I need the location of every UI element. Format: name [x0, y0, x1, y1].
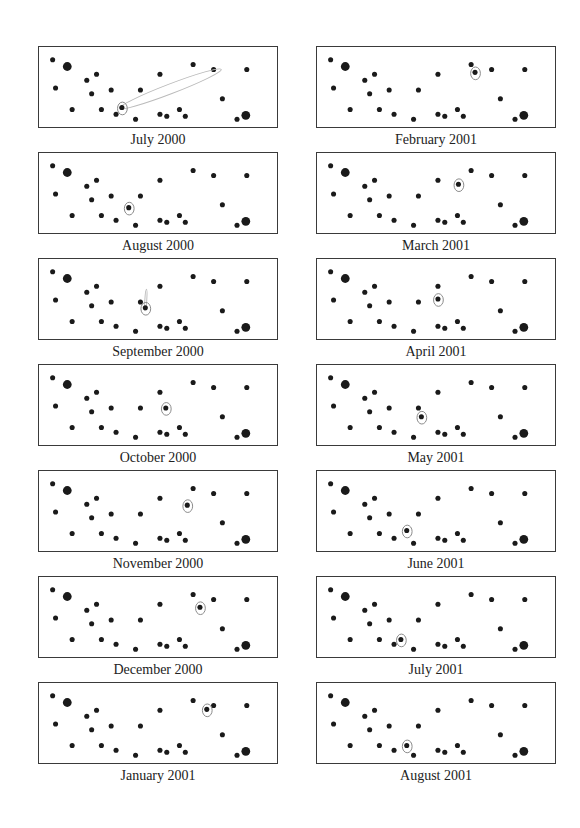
star-icon: [164, 644, 169, 649]
star-icon: [362, 396, 367, 401]
star-icon: [70, 743, 75, 748]
star-icon: [157, 390, 162, 395]
star-field-panel: [38, 576, 278, 658]
star-icon: [512, 117, 517, 122]
star-icon: [177, 319, 182, 324]
panel-caption: November 2000: [38, 556, 278, 572]
star-icon: [331, 615, 336, 620]
star-icon: [191, 486, 196, 491]
star-icon: [138, 617, 143, 622]
star-icon: [341, 486, 350, 495]
panel-caption: April 2001: [316, 344, 556, 360]
star-icon: [138, 723, 143, 728]
star-icon: [177, 425, 182, 430]
star-icon: [461, 750, 466, 755]
star-icon: [244, 597, 249, 602]
star-icon: [455, 213, 460, 218]
star-icon: [498, 96, 503, 101]
star-icon: [50, 269, 55, 274]
star-icon: [442, 220, 447, 225]
star-icon: [519, 747, 528, 756]
star-field-panel: [38, 364, 278, 446]
panel-caption: March 2001: [316, 238, 556, 254]
star-icon: [133, 647, 138, 652]
star-icon: [461, 538, 466, 543]
star-icon: [469, 274, 474, 279]
star-icon: [435, 112, 440, 117]
star-icon: [109, 511, 114, 516]
star-icon: [220, 414, 225, 419]
star-icon: [157, 642, 162, 647]
star-icon: [89, 621, 94, 626]
star-icon: [469, 698, 474, 703]
star-icon: [331, 297, 336, 302]
star-icon: [519, 323, 528, 332]
star-icon: [94, 390, 99, 395]
star-icon: [183, 750, 188, 755]
star-icon: [461, 114, 466, 119]
star-icon: [114, 112, 119, 117]
panel-caption: August 2001: [316, 768, 556, 784]
star-icon: [372, 602, 377, 607]
star-icon: [99, 213, 104, 218]
star-icon: [234, 223, 239, 228]
star-icon: [84, 396, 89, 401]
star-icon: [109, 405, 114, 410]
star-icon: [164, 326, 169, 331]
star-icon: [220, 732, 225, 737]
panel-caption: June 2001: [316, 556, 556, 572]
panel-caption: July 2001: [316, 662, 556, 678]
star-icon: [114, 748, 119, 753]
star-icon: [109, 617, 114, 622]
star-icon: [177, 743, 182, 748]
star-icon: [164, 114, 169, 119]
star-icon: [328, 163, 333, 168]
star-icon: [519, 429, 528, 438]
panel-caption: August 2000: [38, 238, 278, 254]
star-icon: [411, 541, 416, 546]
star-icon: [220, 96, 225, 101]
star-icon: [157, 708, 162, 713]
star-icon: [114, 536, 119, 541]
star-icon: [392, 748, 397, 753]
star-icon: [411, 223, 416, 228]
star-icon: [138, 87, 143, 92]
star-icon: [133, 753, 138, 758]
star-icon: [498, 520, 503, 525]
star-icon: [84, 184, 89, 189]
star-icon: [50, 163, 55, 168]
star-icon: [183, 220, 188, 225]
star-icon: [489, 67, 494, 72]
star-icon: [331, 403, 336, 408]
star-icon: [411, 117, 416, 122]
star-icon: [372, 178, 377, 183]
star-field-panel: [316, 470, 556, 552]
star-icon: [498, 308, 503, 313]
star-icon: [435, 642, 440, 647]
star-icon: [362, 290, 367, 295]
star-icon: [367, 727, 372, 732]
star-icon: [416, 405, 421, 410]
star-icon: [89, 91, 94, 96]
star-icon: [234, 329, 239, 334]
panel-caption: May 2001: [316, 450, 556, 466]
star-icon: [435, 324, 440, 329]
star-icon: [387, 299, 392, 304]
star-icon: [367, 409, 372, 414]
panel-caption: January 2001: [38, 768, 278, 784]
star-icon: [435, 218, 440, 223]
star-icon: [99, 425, 104, 430]
star-icon: [519, 217, 528, 226]
star-icon: [84, 714, 89, 719]
star-icon: [157, 748, 162, 753]
panel-caption: February 2001: [316, 132, 556, 148]
star-icon: [157, 324, 162, 329]
star-icon: [489, 491, 494, 496]
star-icon: [331, 509, 336, 514]
star-icon: [164, 538, 169, 543]
star-icon: [416, 299, 421, 304]
star-icon: [114, 218, 119, 223]
star-icon: [70, 107, 75, 112]
star-icon: [435, 602, 440, 607]
star-icon: [157, 72, 162, 77]
